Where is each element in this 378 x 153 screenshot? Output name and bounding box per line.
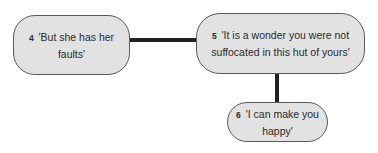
connector-4-to-5 <box>130 38 197 42</box>
node-4-content: 4 'But she has her faults' <box>22 29 121 62</box>
node-4-number: 4 <box>29 33 34 43</box>
node-6-number: 6 <box>236 110 241 120</box>
node-5-number: 5 <box>212 31 217 41</box>
node-5-content: 5 'It is a wonder you were not suffocate… <box>205 27 356 60</box>
node-5-text: 'It is a wonder you were not suffocated … <box>211 29 349 58</box>
node-4: 4 'But she has her faults' <box>13 15 130 75</box>
node-4-text: 'But she has her faults' <box>39 31 115 60</box>
node-6-content: 6 'I can make you happy' <box>236 106 319 139</box>
node-6: 6 'I can make you happy' <box>227 102 328 142</box>
node-5: 5 'It is a wonder you were not suffocate… <box>196 13 365 74</box>
node-6-text: 'I can make you happy' <box>246 108 319 137</box>
connector-5-to-6 <box>275 74 279 103</box>
